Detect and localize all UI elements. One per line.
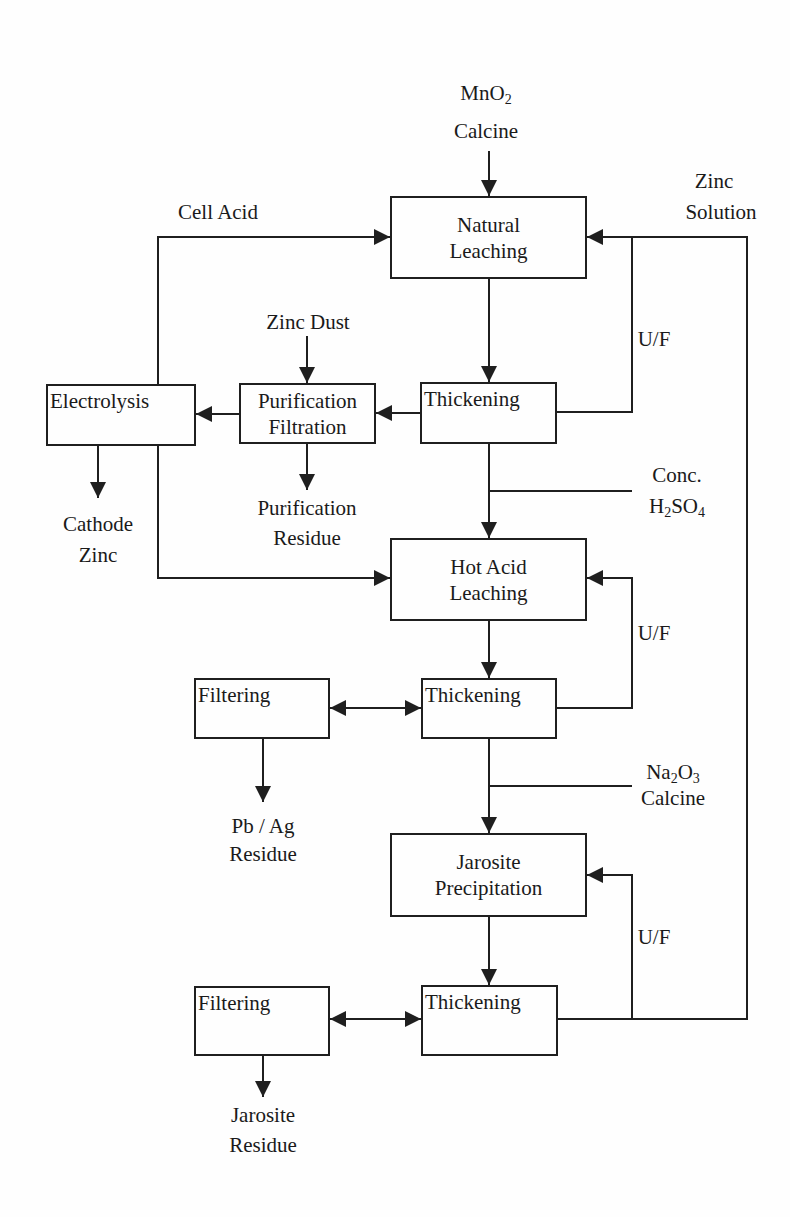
label-purification-residue: Residue [273, 525, 341, 551]
box-label-line1: Jarosite [456, 849, 520, 875]
box-label-line1: Natural [457, 212, 520, 238]
label-conc: Conc. [652, 462, 702, 488]
box-label: Filtering [198, 991, 270, 1015]
box-label: Filtering [198, 683, 270, 707]
box-label-line2: Precipitation [435, 875, 542, 901]
label-text: MnO [460, 81, 504, 105]
label-purification: Purification [257, 495, 356, 521]
box-label-line2: Leaching [449, 238, 527, 264]
label-uf-3: U/F [638, 924, 671, 950]
label-pb-ag-residue: Residue [229, 841, 297, 867]
label-pb-ag: Pb / Ag [231, 813, 294, 839]
box-label-line2: Leaching [449, 580, 527, 606]
label-uf-2: U/F [638, 620, 671, 646]
label-zinc-dust: Zinc Dust [266, 309, 349, 335]
process-flow-diagram: Natural Leaching Electrolysis Purificati… [0, 0, 790, 1217]
uf-loop-3 [587, 875, 632, 1019]
box-thickening-2: Thickening [421, 678, 557, 739]
label-text: H [649, 494, 664, 518]
box-filtering-2: Filtering [194, 986, 330, 1056]
label-subscript: 4 [698, 505, 705, 520]
label-cathode: Cathode [63, 511, 133, 537]
label-na2o3-calcine: Calcine [641, 785, 705, 811]
label-text: Na [646, 760, 671, 784]
box-electrolysis: Electrolysis [46, 384, 196, 446]
label-zinc: Zinc [695, 168, 733, 194]
box-label: Thickening [425, 990, 521, 1014]
label-text: O [678, 760, 693, 784]
label-uf-1: U/F [638, 326, 671, 352]
box-hot-acid-leaching: Hot Acid Leaching [390, 538, 587, 621]
box-jarosite-precipitation: Jarosite Precipitation [390, 833, 587, 917]
box-purification-filtration: Purification Filtration [239, 383, 376, 444]
box-thickening-3: Thickening [421, 985, 558, 1056]
box-label: Thickening [425, 683, 521, 707]
box-label: Thickening [424, 387, 520, 411]
label-cell-acid: Cell Acid [178, 199, 258, 225]
label-subscript: 2 [505, 92, 512, 107]
label-na2o3: Na2O3 [646, 759, 700, 785]
label-solution: Solution [685, 199, 756, 225]
label-jarosite-residue: Residue [229, 1132, 297, 1158]
label-text: SO [671, 494, 698, 518]
label-cathode-zinc: Zinc [79, 542, 117, 568]
label-h2so4: H2SO4 [649, 493, 705, 519]
label-subscript: 2 [671, 771, 678, 786]
label-mno2-calcine: Calcine [454, 118, 518, 144]
label-subscript: 3 [693, 771, 700, 786]
label-mno2: MnO2 [460, 80, 511, 106]
box-label-line1: Hot Acid [450, 554, 526, 580]
box-label-line1: Purification [258, 388, 357, 414]
label-jarosite: Jarosite [231, 1102, 295, 1128]
box-filtering-1: Filtering [194, 678, 330, 739]
box-thickening-1: Thickening [420, 382, 557, 444]
box-label: Electrolysis [50, 389, 149, 413]
box-natural-leaching: Natural Leaching [390, 196, 587, 279]
box-label-line2: Filtration [268, 414, 346, 440]
